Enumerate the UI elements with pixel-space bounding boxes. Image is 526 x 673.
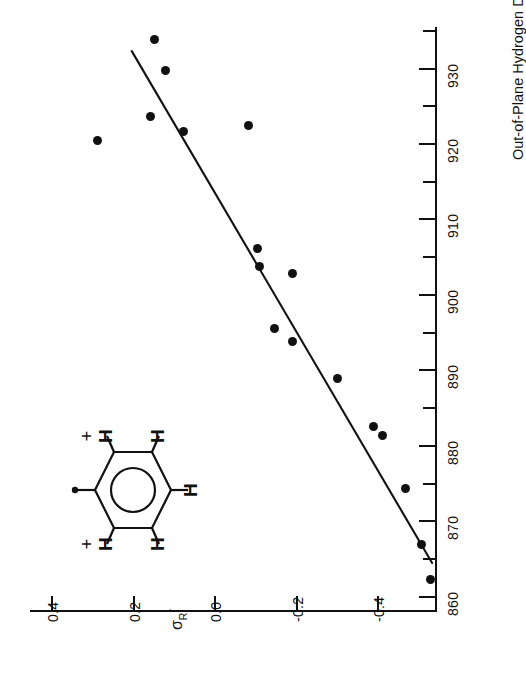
sigma-tick-label-1: 0.2 — [127, 602, 143, 622]
data-point — [253, 244, 262, 253]
wavenumber-tick-935 — [423, 30, 436, 32]
h-label-bottom-right: H — [147, 537, 168, 551]
wavenumber-axis-line — [435, 27, 437, 612]
data-point — [255, 262, 264, 271]
data-point — [270, 324, 279, 333]
wavenumber-tick-870 — [419, 520, 436, 522]
data-point — [417, 540, 426, 549]
wavenumber-tick-label-870: 870 — [445, 516, 461, 540]
wavenumber-tick-885 — [423, 407, 436, 409]
sigma-tick-label-0: 0.4 — [45, 602, 61, 622]
wavenumber-tick-label-910: 910 — [445, 214, 461, 238]
wavenumber-tick-910 — [419, 218, 436, 220]
aromatic-circle — [111, 468, 155, 512]
h-label-bottom-left: H — [95, 537, 116, 551]
data-point — [161, 66, 170, 75]
sigma-subscript: R — [177, 613, 189, 621]
wavenumber-tick-875 — [423, 483, 436, 485]
wavenumber-tick-900 — [419, 294, 436, 296]
data-point — [378, 431, 387, 440]
wavenumber-tick-865 — [423, 558, 436, 560]
sigma-tick-label-2: 0.0 — [208, 602, 224, 622]
wavenumber-tick-label-900: 900 — [445, 290, 461, 314]
benzene-ring-diagram: H H H H H + + — [64, 400, 214, 580]
data-point — [146, 112, 155, 121]
wavenumber-tick-label-920: 920 — [445, 139, 461, 163]
wavenumber-tick-895 — [423, 332, 436, 334]
data-point — [333, 374, 342, 383]
data-point — [369, 422, 378, 431]
h-label-top-right: H — [147, 429, 168, 443]
benzene-hexagon — [95, 452, 171, 528]
wavenumber-tick-860 — [419, 596, 436, 598]
molecule-inset: H H H H H + + — [64, 400, 214, 580]
wavenumber-tick-890 — [419, 369, 436, 371]
sigma-tick-label-3: -0.2 — [290, 597, 306, 622]
wavenumber-tick-label-930: 930 — [445, 63, 461, 87]
charge-label-bottom: + — [77, 539, 97, 550]
wavenumber-tick-label-880: 880 — [445, 441, 461, 465]
wavenumber-tick-905 — [423, 256, 436, 258]
wavenumber-tick-label-890: 890 — [445, 365, 461, 389]
wavenumber-tick-925 — [423, 105, 436, 107]
data-point — [150, 35, 159, 44]
sigma-tick-label-4: -0.4 — [371, 597, 387, 622]
wavenumber-tick-920 — [419, 143, 436, 145]
wavenumber-tick-915 — [423, 181, 436, 183]
wavenumber-tick-930 — [419, 68, 436, 70]
data-point — [179, 127, 188, 136]
data-point — [288, 269, 297, 278]
wavenumber-axis-title: Out-of-Plane Hydrogen Deformation mode I… — [508, 0, 526, 160]
h-label-top-left: H — [95, 429, 116, 443]
data-point — [288, 337, 297, 346]
data-point — [93, 136, 102, 145]
h-label-right: H — [180, 483, 201, 497]
substituent-marker-dot — [72, 487, 78, 493]
wavenumber-tick-label-860: 860 — [445, 592, 461, 616]
sigma-axis-title: σR° — [168, 609, 189, 630]
wavenumber-tick-880 — [419, 445, 436, 447]
sigma-degree-superscript: ° — [168, 609, 178, 613]
data-point — [401, 484, 410, 493]
data-point — [244, 121, 253, 130]
charge-label-top: + — [77, 431, 97, 442]
